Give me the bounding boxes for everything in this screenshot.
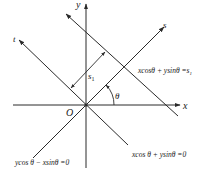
t-axis-label: t [13, 34, 16, 44]
origin-point [84, 103, 87, 106]
origin-label: O [66, 107, 73, 118]
s-axis-label: s [163, 20, 167, 30]
s-axis [33, 27, 164, 158]
equation-line-zero: xcos θ + ysinθ =0 [131, 150, 186, 159]
y-axis-label: y [75, 0, 81, 10]
theta-label: θ [115, 91, 120, 101]
x-axis-label: x [182, 100, 188, 111]
equation-t-axis: ycos θ − xsinθ =0 [14, 158, 69, 167]
theta-arc [106, 85, 114, 105]
s1-distance-arrow [71, 52, 105, 88]
rotation-diagram: x y s t O θ s1 xcosθ + ysinθ =s1 xcos θ … [0, 0, 215, 175]
equation-line-s1: xcosθ + ysinθ =s1 [137, 66, 192, 76]
s1-label: s1 [88, 71, 95, 82]
